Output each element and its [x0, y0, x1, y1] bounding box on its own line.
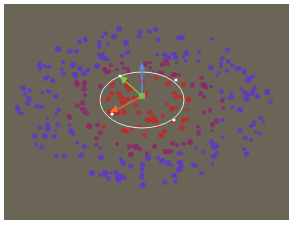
- y-axis-arrow-icon[interactable]: [139, 62, 145, 70]
- center-handle-icon[interactable]: [139, 93, 145, 99]
- scene-viewport[interactable]: [4, 4, 289, 220]
- shape-resize-handle[interactable]: [174, 78, 177, 81]
- shape-resize-handle[interactable]: [118, 74, 121, 77]
- shape-resize-handle[interactable]: [172, 118, 175, 121]
- shape-resize-handle[interactable]: [110, 112, 113, 115]
- x-axis-arrow-icon[interactable]: [110, 105, 118, 112]
- x-axis-handle[interactable]: [116, 96, 142, 110]
- transform-gizmo[interactable]: [4, 4, 289, 220]
